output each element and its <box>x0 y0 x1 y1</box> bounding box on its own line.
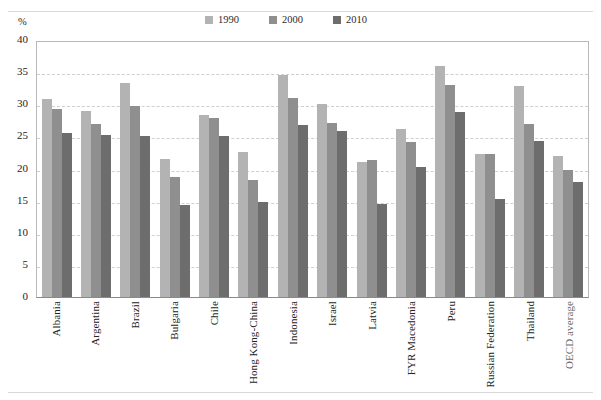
bar-group-hong-kong-china <box>234 42 273 297</box>
x-tick-cell: Peru <box>431 299 471 399</box>
y-axis-tick-labels: 4035302520151050 <box>0 41 32 298</box>
bar-1990 <box>278 75 288 297</box>
bar-groups <box>37 42 588 297</box>
y-tick-label: 35 <box>0 65 28 77</box>
bar-group-bulgaria <box>155 42 194 297</box>
bar-2010 <box>495 199 505 297</box>
bar-group-thailand <box>509 42 548 297</box>
x-tick-cell: Russian Federation <box>471 299 511 399</box>
bar-2000 <box>485 154 495 297</box>
y-tick-label: 30 <box>0 97 28 109</box>
x-tick-label: Latvia <box>366 301 378 330</box>
x-tick-cell: Thailand <box>510 299 550 399</box>
x-tick-cell: Israel <box>313 299 353 399</box>
x-tick-label: Hong Kong-China <box>247 301 259 384</box>
legend-swatch-icon <box>333 16 341 24</box>
bar-2010 <box>180 205 190 297</box>
y-tick-label: 40 <box>0 33 28 45</box>
bar-2010 <box>416 167 426 297</box>
x-tick-cell: Hong Kong-China <box>234 299 274 399</box>
bar-group-albania <box>37 42 76 297</box>
bar-group-fyr-macedonia <box>391 42 430 297</box>
x-tick-label: Argentina <box>89 301 101 346</box>
y-tick-label: 20 <box>0 162 28 174</box>
legend-label: 2010 <box>346 15 367 26</box>
bar-2010 <box>455 112 465 297</box>
bar-2010 <box>62 133 72 297</box>
bar-2010 <box>337 131 347 297</box>
bar-2000 <box>406 142 416 297</box>
y-axis-unit-label: % <box>18 16 27 27</box>
bar-2000 <box>248 180 258 297</box>
bar-2000 <box>91 124 101 297</box>
y-tick-label: 0 <box>0 290 28 302</box>
x-tick-label: Peru <box>445 301 457 322</box>
bar-1990 <box>357 162 367 297</box>
bar-1990 <box>475 154 485 297</box>
bar-group-israel <box>313 42 352 297</box>
bar-group-oecd-average <box>549 42 588 297</box>
bar-1990 <box>317 104 327 297</box>
bar-1990 <box>199 115 209 297</box>
bar-2010 <box>298 125 308 297</box>
bar-2000 <box>327 123 337 297</box>
x-tick-label: Indonesia <box>287 301 299 345</box>
bar-1990 <box>81 111 91 297</box>
x-tick-cell: Latvia <box>352 299 392 399</box>
bar-group-chile <box>194 42 233 297</box>
bar-2010 <box>101 135 111 297</box>
bar-1990 <box>514 86 524 297</box>
x-tick-label: Bulgaria <box>168 301 180 340</box>
bar-2000 <box>52 109 62 297</box>
bar-group-brazil <box>116 42 155 297</box>
x-tick-label: Brazil <box>129 301 141 328</box>
x-tick-label: Albania <box>50 301 62 337</box>
x-tick-cell: Bulgaria <box>155 299 195 399</box>
cut-off-title <box>0 0 601 11</box>
x-tick-cell: Chile <box>194 299 234 399</box>
bar-group-argentina <box>76 42 115 297</box>
bar-group-russian-federation <box>470 42 509 297</box>
bar-1990 <box>238 152 248 297</box>
x-tick-cell: OECD average <box>550 299 590 399</box>
legend-item-2010: 2010 <box>333 15 367 26</box>
legend-label: 2000 <box>282 15 303 26</box>
bar-1990 <box>120 83 130 297</box>
bar-2000 <box>130 106 140 297</box>
bar-2000 <box>367 160 377 297</box>
bar-2000 <box>209 118 219 297</box>
bar-1990 <box>396 129 406 297</box>
legend-label: 1990 <box>218 15 239 26</box>
top-rule <box>8 11 593 12</box>
y-tick-label: 15 <box>0 194 28 206</box>
x-tick-cell: Argentina <box>76 299 116 399</box>
x-tick-label: FYR Macedonia <box>405 301 417 375</box>
x-tick-label: Israel <box>326 301 338 326</box>
x-axis-tick-labels: AlbaniaArgentinaBrazilBulgariaChileHong … <box>36 299 589 399</box>
bar-2010 <box>377 204 387 297</box>
bar-2010 <box>573 182 583 297</box>
bar-group-peru <box>431 42 470 297</box>
y-tick-label: 10 <box>0 226 28 238</box>
bottom-rule <box>8 392 593 393</box>
bar-2010 <box>140 136 150 297</box>
chart-legend: 199020002010 <box>205 15 367 26</box>
bar-2000 <box>170 177 180 297</box>
x-tick-label: OECD average <box>563 301 575 369</box>
x-tick-cell: FYR Macedonia <box>392 299 432 399</box>
x-tick-label: Thailand <box>524 301 536 341</box>
bar-2000 <box>563 170 573 297</box>
legend-swatch-icon <box>269 16 277 24</box>
bar-1990 <box>42 99 52 297</box>
legend-item-2000: 2000 <box>269 15 303 26</box>
bar-2000 <box>524 124 534 297</box>
y-tick-label: 25 <box>0 129 28 141</box>
bar-2010 <box>258 202 268 297</box>
x-tick-label: Chile <box>208 301 220 325</box>
plot-area <box>36 41 589 298</box>
bar-1990 <box>553 156 563 297</box>
bar-1990 <box>160 159 170 297</box>
x-tick-cell: Albania <box>36 299 76 399</box>
y-tick-label: 5 <box>0 258 28 270</box>
x-tick-cell: Indonesia <box>273 299 313 399</box>
